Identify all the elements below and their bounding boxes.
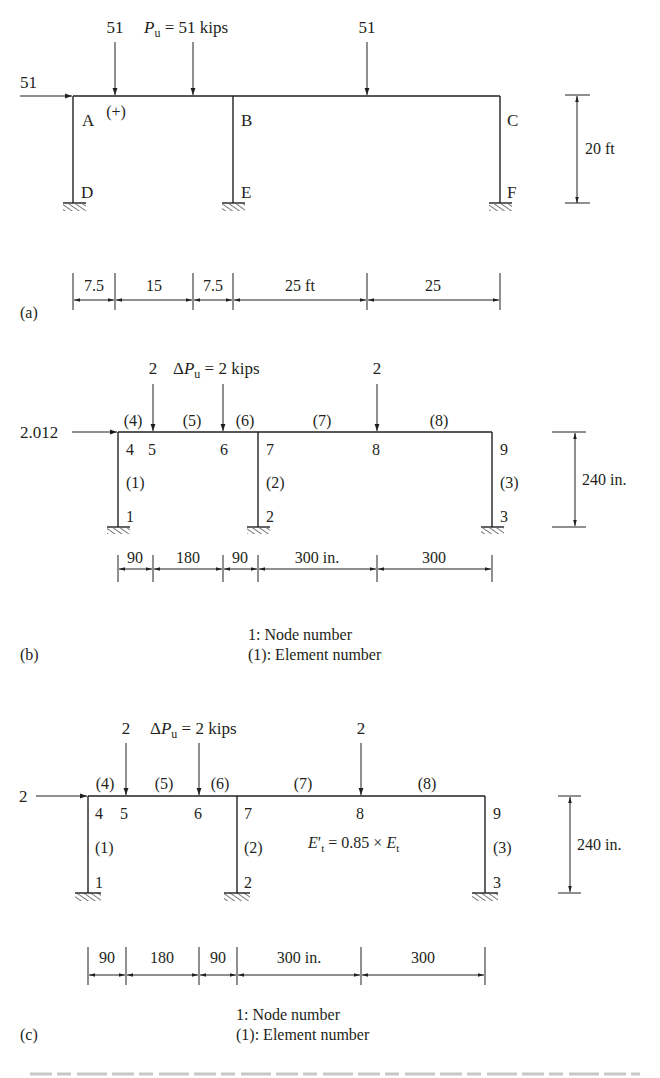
point-load-right-label: 2 — [357, 719, 366, 738]
height-dimension-b: 240 in. — [552, 432, 626, 527]
point-load-right-label: 51 — [359, 18, 376, 37]
node-label: 5 — [148, 441, 156, 458]
node-label: 9 — [493, 805, 501, 822]
fixed-support-node-1-icon — [107, 527, 130, 534]
node-label: 9 — [500, 441, 508, 458]
legend-element-number: (1): Element number — [236, 1026, 370, 1044]
sign-convention-label: (+) — [106, 103, 126, 121]
fixed-support-f-icon — [489, 203, 512, 211]
node-label: 1 — [95, 874, 103, 891]
span-dim-label: 7.5 — [203, 277, 223, 294]
span-dim-label: 90 — [232, 549, 248, 566]
element-label: (3) — [493, 839, 512, 857]
frame-b-members — [118, 432, 492, 527]
node-label: 6 — [194, 805, 202, 822]
span-dim-label: 7.5 — [84, 277, 104, 294]
span-dim-label: 15 — [146, 277, 162, 294]
span-dim-label: 300 — [411, 949, 435, 966]
load-equation: ΔPu = 2 kips — [150, 719, 237, 741]
node-label: 7 — [244, 805, 252, 822]
fixed-support-node-2-icon — [247, 527, 270, 534]
frame-a-members — [73, 96, 500, 203]
node-label: 6 — [220, 441, 228, 458]
point-load-left-label: 51 — [107, 18, 124, 37]
horizontal-load-label: 51 — [20, 73, 37, 92]
element-label: (7) — [294, 775, 313, 793]
node-label: 4 — [126, 441, 134, 458]
span-dim-label: 300 in. — [295, 549, 339, 566]
element-label: (1) — [95, 839, 114, 857]
point-load-right-label: 2 — [373, 359, 382, 378]
element-label: (3) — [500, 474, 519, 492]
span-dim-label: 300 in. — [277, 949, 321, 966]
joint-e-label: E — [241, 183, 251, 202]
joint-c-label: C — [507, 111, 518, 130]
tangent-modulus-equation: E′t = 0.85 × Et — [307, 834, 399, 854]
height-dimension-label: 20 ft — [585, 140, 615, 157]
node-label: 7 — [266, 441, 274, 458]
element-label: (7) — [313, 412, 332, 430]
joint-f-label: F — [507, 183, 516, 202]
load-equation: ΔPu = 2 kips — [173, 359, 260, 381]
element-label: (2) — [244, 839, 263, 857]
frame-diagram: 51 51 Pu = 51 kips 51 (+) A B C D E F 20… — [0, 0, 660, 1078]
fixed-support-node-3-icon — [481, 527, 504, 534]
element-label: (1) — [126, 474, 145, 492]
span-dim-label: 180 — [176, 549, 200, 566]
node-label: 5 — [120, 805, 128, 822]
node-label: 3 — [500, 508, 508, 525]
span-dim-label: 25 ft — [285, 277, 315, 294]
legend-element-number: (1): Element number — [248, 646, 382, 664]
joint-a-label: A — [82, 111, 95, 130]
legend-node-number: 1: Node number — [248, 626, 353, 643]
height-dimension-label: 240 in. — [577, 836, 621, 853]
panel-c: 2 2 ΔPu = 2 kips 2 (4) (5) (6) (7) (8) (… — [19, 719, 621, 1044]
panel-label-c: (c) — [20, 1026, 38, 1044]
element-label: (5) — [155, 775, 174, 793]
span-dim-label: 90 — [210, 949, 226, 966]
element-label: (4) — [96, 775, 115, 793]
node-label: 4 — [95, 805, 103, 822]
span-dim-label: 180 — [150, 949, 174, 966]
point-load-left-label: 2 — [122, 719, 131, 738]
fixed-support-e-icon — [222, 203, 245, 211]
fixed-support-node-3-icon — [472, 893, 498, 901]
node-label: 1 — [126, 508, 134, 525]
fixed-support-node-1-icon — [75, 893, 101, 901]
span-dimensions-b: 90 180 90 300 in. 300 — [118, 549, 492, 582]
joint-d-label: D — [81, 183, 93, 202]
element-label: (6) — [236, 412, 255, 430]
fixed-support-d-icon — [63, 203, 86, 211]
panel-b: 2.012 2 ΔPu = 2 kips 2 (4) (5) (6) (7) (… — [20, 359, 626, 664]
panel-label-a: (a) — [20, 304, 38, 322]
element-label: (2) — [266, 474, 285, 492]
span-dim-label: 300 — [422, 549, 446, 566]
horizontal-load-label: 2 — [19, 787, 28, 806]
node-label: 2 — [266, 508, 274, 525]
height-dimension-a: 20 ft — [565, 95, 615, 203]
node-label: 8 — [356, 805, 364, 822]
height-dimension-c: 240 in. — [558, 796, 621, 893]
element-label: (5) — [183, 412, 202, 430]
panel-a: 51 51 Pu = 51 kips 51 (+) A B C D E F 20… — [20, 18, 615, 322]
span-dimensions-a: 7.5 15 7.5 25 ft 25 — [73, 273, 500, 310]
span-dimensions-c: 90 180 90 300 in. 300 — [88, 947, 485, 985]
node-label: 3 — [493, 874, 501, 891]
joint-b-label: B — [241, 111, 252, 130]
element-label: (8) — [418, 775, 437, 793]
frame-c-members — [88, 796, 485, 893]
node-label: 2 — [244, 874, 252, 891]
horizontal-load-label: 2.012 — [20, 423, 58, 442]
fixed-support-node-2-icon — [224, 893, 250, 901]
load-equation: Pu = 51 kips — [143, 18, 228, 40]
height-dimension-label: 240 in. — [582, 471, 626, 488]
panel-label-b: (b) — [20, 646, 39, 664]
element-label: (8) — [430, 412, 449, 430]
element-label: (6) — [211, 775, 230, 793]
element-label: (4) — [124, 412, 143, 430]
span-dim-label: 25 — [425, 277, 441, 294]
span-dim-label: 90 — [127, 549, 143, 566]
point-load-left-label: 2 — [149, 359, 158, 378]
node-label: 8 — [372, 441, 380, 458]
legend-node-number: 1: Node number — [236, 1006, 341, 1023]
